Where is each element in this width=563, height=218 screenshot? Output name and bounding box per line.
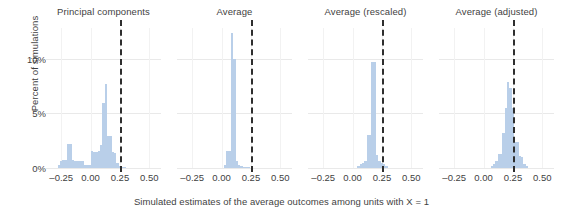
histogram-bar (374, 62, 376, 168)
x-tick-label: –0.25 (311, 172, 335, 183)
histogram-bars (46, 28, 161, 168)
x-tick-label: 0.25 (242, 172, 261, 183)
histogram-bar (247, 167, 249, 168)
histogram-bar (233, 59, 235, 168)
panel-title: Average (rescaled) (308, 6, 423, 17)
x-tick-label: 0.00 (212, 172, 231, 183)
y-tick-label: 10% (0, 53, 46, 64)
x-tick-label: 0.00 (474, 172, 493, 183)
facet-panel: Principal components–0.250.000.250.50 (46, 28, 161, 168)
x-tick-label: 0.25 (504, 172, 523, 183)
reference-line (382, 20, 384, 172)
y-tick-label: 5% (0, 108, 46, 119)
histogram-bars (177, 28, 292, 168)
reference-line (120, 20, 122, 172)
x-tick-label: –0.25 (49, 172, 73, 183)
histogram-bars (439, 28, 554, 168)
panel-title: Principal components (46, 6, 161, 17)
plot-area (177, 28, 292, 168)
plot-area (46, 28, 161, 168)
x-axis-label: Simulated estimates of the average outco… (0, 196, 563, 207)
x-axis-ticks: –0.250.000.250.50 (46, 169, 161, 185)
histogram-figure: Percent of simulations 0%5%10% Principal… (0, 0, 563, 218)
x-axis-ticks: –0.250.000.250.50 (439, 169, 554, 185)
histogram-bar (385, 166, 387, 168)
panel-title: Average (177, 6, 292, 17)
x-tick-label: 0.00 (343, 172, 362, 183)
reference-line (251, 20, 253, 172)
x-tick-label: 0.50 (402, 172, 421, 183)
histogram-bar (123, 167, 125, 168)
x-axis-ticks: –0.250.000.250.50 (177, 169, 292, 185)
plot-area (439, 28, 554, 168)
x-tick-label: 0.25 (111, 172, 130, 183)
panel-title: Average (adjusted) (439, 6, 554, 17)
x-tick-label: –0.25 (180, 172, 204, 183)
x-tick-label: 0.00 (81, 172, 100, 183)
x-tick-label: 0.25 (373, 172, 392, 183)
x-axis-ticks: –0.250.000.250.50 (308, 169, 423, 185)
facet-panel: Average–0.250.000.250.50 (177, 28, 292, 168)
x-tick-label: 0.50 (140, 172, 159, 183)
facet-panel: Average (adjusted)–0.250.000.250.50 (439, 28, 554, 168)
y-tick-label: 0% (0, 163, 46, 174)
reference-line (513, 20, 515, 172)
plot-area (308, 28, 423, 168)
x-tick-label: 0.50 (271, 172, 290, 183)
x-tick-label: 0.50 (533, 172, 552, 183)
histogram-bars (308, 28, 423, 168)
x-tick-label: –0.25 (442, 172, 466, 183)
histogram-bar (526, 166, 528, 168)
facet-panel: Average (rescaled)–0.250.000.250.50 (308, 28, 423, 168)
y-axis-ticks: 0%5%10% (0, 0, 46, 218)
